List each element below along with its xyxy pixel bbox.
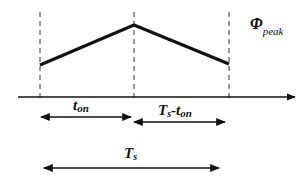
ts-label: Ts [124, 145, 137, 162]
ts-minus-ton-label: Ts-ton [158, 102, 192, 119]
waveform-diagram: Φpeak ton Ts-ton Ts [0, 0, 308, 181]
ton-label: ton [73, 97, 89, 114]
phi-peak-label: Φpeak [250, 15, 285, 37]
